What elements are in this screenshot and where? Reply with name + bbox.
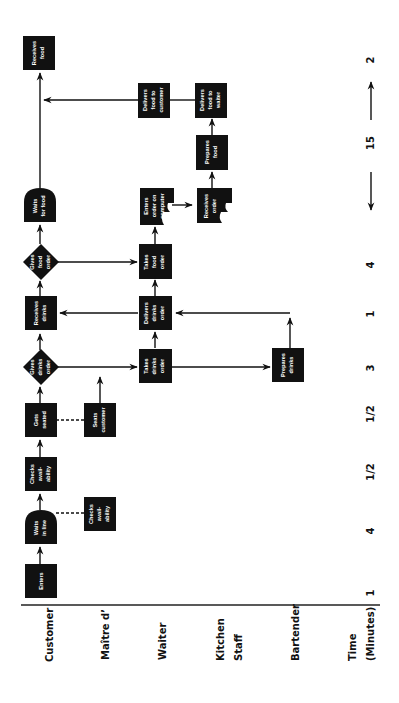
label-line: avail-: [37, 467, 43, 481]
svg-text:drinks: drinks: [288, 357, 294, 374]
label-line: order: [45, 254, 51, 269]
time-label-1: 1: [365, 589, 376, 596]
svg-text:order: order: [159, 254, 165, 269]
svg-text:customer: customer: [158, 87, 164, 113]
lane-label-time-line2: (Minutes): [365, 607, 376, 661]
svg-text:Gives: Gives: [29, 359, 35, 374]
svg-text:waiter: waiter: [215, 91, 221, 109]
svg-text:Receives: Receives: [203, 194, 209, 218]
svg-text:order: order: [159, 305, 165, 320]
service-blueprint-diagram: Customer Maître d’ Waiter Kitchen Staff …: [0, 0, 399, 703]
svg-text:seated: seated: [41, 411, 47, 429]
label-line: ability: [45, 465, 51, 482]
label-line: Delivers: [142, 89, 148, 111]
lane-label-customer: Customer: [44, 608, 55, 662]
svg-text:Prepares: Prepares: [204, 140, 210, 164]
time-label-6: 1: [365, 310, 376, 317]
label-line: customer: [158, 87, 164, 113]
node-seats-customer: Seats customer: [84, 403, 116, 437]
label-line: Delivers: [143, 302, 149, 324]
svg-text:Takes: Takes: [143, 358, 149, 373]
svg-text:food to: food to: [150, 90, 156, 110]
svg-text:Delivers: Delivers: [143, 302, 149, 324]
node-checks-availability-maitre-d: Checks avail- ability: [84, 497, 116, 531]
svg-text:Gives: Gives: [29, 254, 35, 269]
svg-text:Seats: Seats: [92, 413, 98, 428]
label-line: waiter: [215, 91, 221, 109]
label-line: Delivers: [199, 89, 205, 111]
svg-text:Checks: Checks: [88, 504, 94, 524]
label-line: Takes: [143, 254, 149, 269]
label-line: Takes: [143, 358, 149, 373]
node-enters: Enters: [25, 564, 57, 598]
svg-text:drinks: drinks: [41, 305, 47, 322]
label-line: avail-: [96, 507, 102, 521]
svg-text:drinks: drinks: [151, 358, 157, 375]
svg-text:order: order: [211, 198, 217, 213]
label-line: seated: [41, 411, 47, 429]
svg-text:food: food: [151, 255, 157, 268]
label-line: order: [211, 198, 217, 213]
label-line: drinks: [151, 305, 157, 322]
svg-text:computer: computer: [159, 192, 165, 218]
node-waits-in-line: Waits in line: [25, 510, 57, 544]
node-waits-in-line-label-2: in line: [41, 520, 47, 536]
label-line: ability: [104, 505, 110, 522]
svg-text:Prepares: Prepares: [280, 353, 286, 377]
svg-text:Receives: Receives: [31, 41, 37, 65]
label-line: Enters: [143, 197, 149, 214]
svg-text:avail-: avail-: [37, 467, 43, 481]
node-checks-availability-customer: Checks avail- ability: [25, 457, 57, 491]
node-gives-food-order: Gives food order: [23, 244, 59, 280]
svg-text:Gets: Gets: [33, 414, 39, 426]
lane-label-kitchen-line2: Staff: [233, 633, 244, 661]
svg-text:food: food: [37, 255, 43, 268]
node-enters-label: Enters: [38, 572, 44, 589]
time-label-3: 1/2: [365, 463, 376, 481]
node-receives-food: Receives food: [23, 36, 55, 70]
label-line: order: [45, 359, 51, 374]
label-line: Receives: [203, 194, 209, 218]
svg-text:order on: order on: [151, 194, 157, 217]
svg-text:order: order: [45, 359, 51, 374]
svg-text:Checks: Checks: [29, 464, 35, 484]
lane-label-kitchen-line1: Kitchen: [215, 618, 226, 661]
label-line: Waits: [32, 199, 38, 214]
label-line: drinks: [37, 359, 43, 376]
label-line: food: [151, 255, 157, 268]
label-line: Gives: [29, 254, 35, 269]
svg-text:order: order: [159, 358, 165, 373]
label-line: order: [159, 358, 165, 373]
svg-text:food: food: [212, 145, 218, 158]
label-line: order: [159, 254, 165, 269]
node-gives-drinks-order: Gives drinks order: [23, 349, 59, 385]
svg-text:customer: customer: [100, 407, 106, 433]
time-label-8: 15: [365, 136, 376, 150]
time-label-4: 1/2: [365, 405, 376, 423]
label-line: food: [39, 46, 45, 59]
label-line: order on: [151, 194, 157, 217]
svg-text:avail-: avail-: [96, 507, 102, 521]
lane-label-time-line1: Time: [347, 633, 358, 661]
node-waits-in-line-label-1: Waits: [33, 521, 39, 536]
label-line: Prepares: [204, 140, 210, 164]
label-line: Checks: [29, 464, 35, 484]
svg-text:Enters: Enters: [143, 197, 149, 214]
node-waits-for-food: Waits for food: [24, 188, 56, 222]
node-gets-seated: Gets seated: [25, 403, 57, 437]
svg-text:ability: ability: [45, 465, 51, 482]
label-line: Receives: [33, 301, 39, 325]
label-line: order: [159, 305, 165, 320]
svg-text:food to: food to: [207, 90, 213, 110]
time-label-7: 4: [365, 261, 376, 268]
svg-text:ability: ability: [104, 505, 110, 522]
node-receives-drinks: Receives drinks: [25, 296, 57, 330]
node-enters-order-on-computer: Enters order on computer: [140, 188, 174, 225]
label-line: for food: [40, 195, 46, 217]
svg-text:Waits: Waits: [32, 199, 38, 214]
svg-text:drinks: drinks: [151, 305, 157, 322]
time-label-9: 2: [365, 56, 376, 63]
svg-text:Takes: Takes: [143, 254, 149, 269]
label-line: Prepares: [280, 353, 286, 377]
label-line: drinks: [151, 358, 157, 375]
